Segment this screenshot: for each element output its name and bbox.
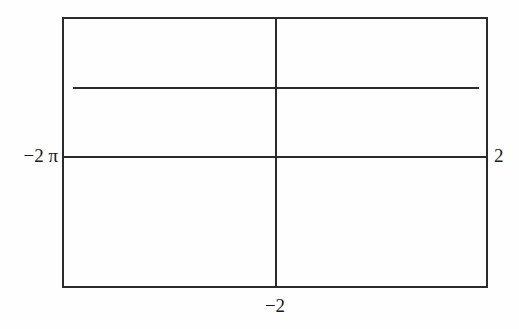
horizontal-axis-line [64,156,486,158]
right-edge-label: 2 [494,146,504,165]
x-axis-tick-label: −2 [245,296,305,315]
y-axis-tick-label: −2 π [0,146,58,165]
figure-container: −2 π 2 −2 [0,0,519,329]
vertical-axis-line [275,19,277,286]
plotted-line-segment [73,87,479,89]
plot-frame [62,17,488,288]
